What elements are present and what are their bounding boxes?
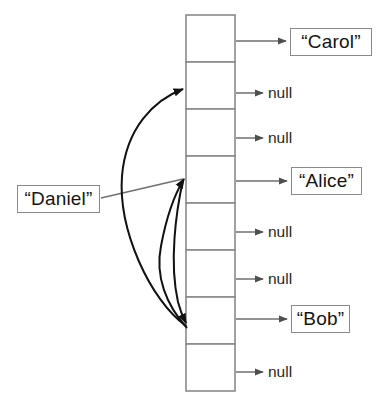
diagram-canvas: “Daniel” “Carol” “Alice” “Bob” null null… (0, 0, 379, 409)
null-label-slot-2: null (268, 130, 292, 146)
bucket-cell-0[interactable] (186, 15, 235, 62)
probe-curves (122, 89, 187, 328)
key-box-daniel[interactable]: “Daniel” (17, 185, 100, 213)
bucket-cell-4[interactable] (186, 203, 235, 250)
key-box-label: “Daniel” (24, 188, 92, 210)
bucket-cell-2[interactable] (186, 109, 235, 156)
bucket-cell-3[interactable] (186, 156, 235, 203)
daniel-pointer-line (101, 179, 183, 198)
bucket-array (186, 15, 235, 391)
probe-curve-to-slot-6 (174, 180, 186, 323)
null-label-slot-5: null (268, 271, 292, 287)
bucket-cell-1[interactable] (186, 62, 235, 109)
bucket-cell-6[interactable] (186, 297, 235, 344)
value-box-alice-label: “Alice” (299, 170, 354, 192)
value-box-carol-label: “Carol” (301, 31, 360, 53)
bucket-cell-5[interactable] (186, 250, 235, 297)
bucket-cell-7[interactable] (186, 344, 235, 391)
value-box-alice[interactable]: “Alice” (291, 167, 362, 195)
null-label-slot-7: null (268, 364, 292, 380)
null-label-slot-1: null (268, 85, 292, 101)
value-box-bob-label: “Bob” (297, 308, 344, 330)
value-box-bob[interactable]: “Bob” (291, 305, 350, 333)
value-box-carol[interactable]: “Carol” (290, 28, 372, 56)
null-label-slot-4: null (268, 224, 292, 240)
